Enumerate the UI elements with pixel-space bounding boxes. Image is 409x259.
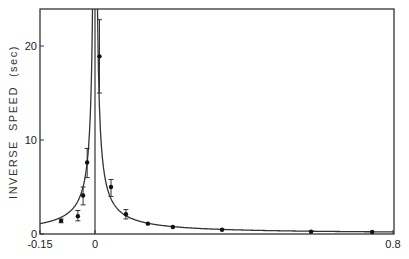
x-tick-label: 0 [92, 238, 98, 250]
data-point [81, 187, 86, 205]
axis-ticks: 01020-0.1500.8 [25, 40, 401, 250]
y-axis-label: INVERSE SPEED (sec) [7, 45, 19, 199]
data-points [59, 20, 375, 234]
data-point [59, 219, 64, 223]
x-tick-label: 0.8 [385, 238, 400, 250]
data-point [123, 210, 128, 219]
data-point [370, 230, 374, 234]
plot-frame [40, 9, 394, 234]
data-point [146, 221, 150, 225]
x-tick-label: -0.15 [27, 238, 52, 250]
data-point [220, 228, 224, 232]
chart: 01020-0.1500.8 INVERSE SPEED (sec) [0, 0, 409, 259]
y-tick-label: 20 [25, 40, 37, 52]
fit-curve [39, 0, 393, 232]
data-point [171, 225, 175, 229]
y-tick-label: 10 [25, 134, 37, 146]
data-point [309, 229, 313, 233]
data-point [75, 211, 80, 221]
